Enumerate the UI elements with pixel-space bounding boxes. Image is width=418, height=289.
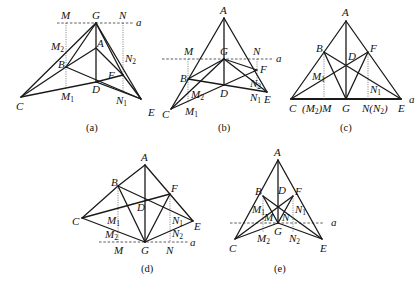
- label-e: E: [193, 220, 201, 232]
- label-n: N: [118, 9, 127, 21]
- label-n-n2: N(N2): [361, 102, 388, 116]
- segment-b-a: [66, 48, 96, 67]
- label-n2: N2: [171, 227, 183, 241]
- label-b: B: [180, 72, 187, 84]
- label-n1: N1: [369, 83, 381, 97]
- label-b: B: [111, 176, 118, 188]
- label-b: B: [255, 185, 262, 197]
- label-m2: M2: [256, 232, 270, 246]
- label-a-line: a: [136, 16, 142, 28]
- label-n2: N2: [124, 52, 136, 66]
- label-g: G: [220, 45, 228, 57]
- label-f: F: [259, 63, 267, 75]
- label-m2: M2: [50, 40, 64, 54]
- label-e: E: [397, 102, 405, 114]
- label-m: M: [60, 9, 71, 21]
- label-m1: M1: [184, 105, 198, 119]
- label-f: F: [170, 182, 178, 194]
- caption-b: (b): [218, 122, 231, 134]
- label-c: C: [229, 242, 237, 254]
- label-g: G: [92, 9, 100, 21]
- figure-c: A B F D M1 N1 C (M2)M G N(N2) E a (c): [289, 6, 415, 134]
- segment-g-b: [66, 23, 96, 67]
- segment-a-e: [145, 165, 193, 221]
- label-f: F: [369, 42, 377, 54]
- segment-a-e: [278, 160, 322, 239]
- segment-b-e: [118, 186, 193, 221]
- label-m2-m: (M2)M: [302, 102, 332, 116]
- label-c: C: [289, 102, 297, 114]
- label-m1: M1: [311, 70, 325, 84]
- label-n1: N1: [115, 94, 127, 108]
- label-m1: M1: [60, 90, 74, 104]
- label-g: G: [141, 244, 149, 256]
- label-n: N: [165, 244, 174, 256]
- label-a: A: [273, 146, 281, 158]
- label-g: G: [274, 225, 282, 237]
- geometry-figure-panel: M G N a M2 A N2 B F D M1 N1 C E (a) A M …: [0, 0, 418, 289]
- label-e: E: [147, 106, 155, 118]
- label-a-line: a: [276, 52, 282, 64]
- label-a: A: [341, 6, 349, 18]
- label-m: M: [183, 45, 194, 57]
- label-a-line: a: [409, 93, 415, 105]
- label-a: A: [96, 37, 104, 49]
- label-n2: N2: [288, 232, 300, 246]
- segment-g-e: [145, 221, 193, 242]
- label-a: A: [140, 151, 148, 163]
- segment-g-f: [224, 59, 257, 70]
- caption-e: (e): [274, 263, 286, 275]
- label-c: C: [162, 108, 170, 120]
- figure-b: A M G N a B F N2 M2 D N1 E M1 C (b): [162, 4, 282, 134]
- label-c: C: [16, 100, 24, 112]
- label-m: M: [113, 244, 124, 256]
- label-d: D: [219, 87, 228, 99]
- label-d: D: [136, 201, 145, 213]
- label-c: C: [72, 215, 80, 227]
- caption-d: (d): [141, 263, 154, 275]
- figure-e: A B D F M1 N1 M N a G M2 N2 C E (e): [229, 146, 337, 275]
- label-f: F: [107, 69, 115, 81]
- label-m: M: [263, 211, 274, 223]
- segment-a-b: [118, 165, 145, 186]
- label-m2: M2: [104, 228, 118, 242]
- segment-f-g: [145, 194, 170, 242]
- label-f: F: [294, 185, 302, 197]
- label-e: E: [319, 242, 327, 254]
- caption-a: (a): [86, 122, 98, 134]
- label-b: B: [58, 58, 65, 70]
- segment-g-f: [96, 23, 123, 75]
- label-d: D: [347, 50, 356, 62]
- label-a-line: a: [190, 236, 196, 248]
- label-d: D: [277, 184, 286, 196]
- label-g: G: [342, 102, 350, 114]
- label-a: A: [219, 4, 227, 16]
- segment-a-e: [224, 18, 267, 92]
- label-b: B: [316, 42, 323, 54]
- label-n: N: [281, 211, 290, 223]
- label-m2: M2: [190, 88, 204, 102]
- caption-c: (c): [340, 122, 352, 134]
- label-n1: N1: [294, 203, 306, 217]
- label-e: E: [263, 93, 271, 105]
- segment-a-c: [235, 160, 278, 239]
- label-n: N: [252, 45, 261, 57]
- label-a-line: a: [331, 216, 337, 228]
- figure-a: M G N a M2 A N2 B F D M1 N1 C E (a): [16, 9, 155, 134]
- label-n1: N1: [249, 91, 261, 105]
- figure-d: A B F D C M1 N1 E M2 N2 a M G N (d): [72, 151, 201, 275]
- label-d: D: [91, 83, 100, 95]
